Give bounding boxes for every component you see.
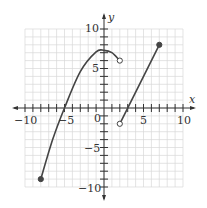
open-endpoint: [117, 121, 122, 126]
y-tick-label-10: 10: [85, 22, 99, 35]
y-tick-label-neg5: −5: [84, 142, 100, 155]
closed-endpoint: [157, 42, 162, 47]
graph: −10 −5 0 5 10 10 5 −5 −10 x y: [0, 0, 207, 208]
y-axis-up-arrow-icon: [102, 13, 106, 19]
axes: [12, 13, 196, 201]
closed-endpoint: [38, 177, 43, 182]
y-axis-label: y: [107, 11, 115, 24]
y-tick-label-5: 5: [92, 62, 99, 75]
x-tick-label-neg10: −10: [14, 114, 37, 127]
open-endpoint: [117, 58, 122, 63]
x-axis-left-arrow-icon: [12, 106, 18, 110]
x-tick-label-10: 10: [177, 114, 191, 127]
x-tick-label-neg5: −5: [58, 114, 74, 127]
x-axis-right-arrow-icon: [190, 106, 196, 110]
y-axis-down-arrow-icon: [102, 195, 106, 201]
y-tick-label-neg10: −10: [78, 182, 101, 195]
x-axis-label: x: [189, 93, 196, 106]
x-tick-label-5: 5: [140, 114, 147, 127]
origin-label: 0: [94, 112, 101, 125]
